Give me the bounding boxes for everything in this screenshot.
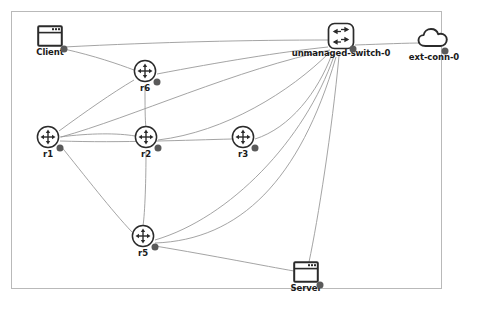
port-r6	[154, 79, 161, 86]
port-ext-conn-0	[442, 48, 449, 55]
edge-client-r6	[64, 49, 134, 70]
port-client	[61, 46, 68, 53]
edge-r1-r6	[59, 80, 134, 131]
edge-switch-server	[309, 56, 339, 262]
edge-r2-r5	[143, 151, 146, 226]
diagram-canvas: Client unmanaged-switch-0	[0, 0, 491, 316]
port-r3	[252, 145, 259, 152]
port-server	[317, 282, 324, 289]
node-label-r3: r3	[238, 149, 248, 159]
edge-switch-extconn	[355, 43, 424, 45]
node-label-r5: r5	[138, 248, 148, 258]
edge-r1-r5	[60, 145, 132, 232]
edge-client-switch	[64, 40, 330, 47]
node-label-r1: r1	[43, 149, 53, 159]
port-unmanaged-switch-0	[350, 46, 357, 53]
node-label-r2: r2	[141, 149, 151, 159]
edge-r5-server	[155, 246, 294, 271]
node-label-r6: r6	[140, 83, 150, 93]
port-r2	[155, 145, 162, 152]
node-label-unmanaged-switch-0: unmanaged-switch-0	[292, 48, 391, 58]
port-r1	[57, 145, 64, 152]
node-label-ext-conn-0: ext-conn-0	[409, 52, 459, 62]
port-r5	[152, 244, 159, 251]
edge-switch-r1-long	[61, 50, 330, 137]
